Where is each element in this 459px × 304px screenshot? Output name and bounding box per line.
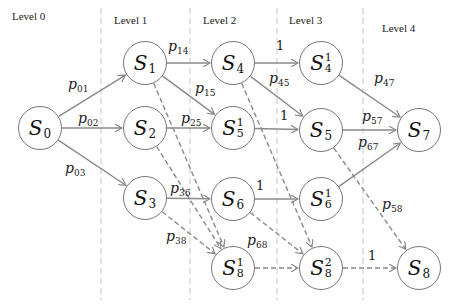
node-s2: S2 xyxy=(123,106,167,150)
edge-label-p15: p15 xyxy=(195,80,215,96)
node-s4: S4 xyxy=(211,41,255,85)
node-s1: S1 xyxy=(123,41,167,85)
level-label-1: Level 1 xyxy=(114,14,147,26)
edge-label-p02: p02 xyxy=(78,110,98,126)
edge-label-p67: p67 xyxy=(358,134,378,150)
level-label-2: Level 2 xyxy=(203,14,236,26)
edge-label-unit-0: 1 xyxy=(276,38,284,53)
edge-label-unit-3: 1 xyxy=(368,248,376,263)
node-s6: S6 xyxy=(211,177,255,221)
edge-label-p58: p58 xyxy=(382,196,402,212)
node-s8: S8 xyxy=(397,246,441,290)
node-s0: S0 xyxy=(18,106,62,150)
node-s8-2: S28 xyxy=(299,246,343,290)
level-label-0: Level 0 xyxy=(12,10,45,22)
node-s3: S3 xyxy=(123,176,167,220)
edge-label-p03: p03 xyxy=(65,160,85,176)
edge-label-p45: p45 xyxy=(269,70,289,86)
edge-label-p14: p14 xyxy=(168,38,188,54)
node-s7: S7 xyxy=(397,108,441,152)
level-label-4: Level 4 xyxy=(382,22,415,34)
node-s5-1: S15 xyxy=(211,106,255,150)
edge-label-unit-2: 1 xyxy=(256,178,264,193)
edge-S1-S8_1 xyxy=(154,83,224,247)
edge-label-p57: p57 xyxy=(362,108,382,124)
state-transition-diagram: Level 0Level 1Level 2Level 3Level 4 S0S1… xyxy=(0,0,459,304)
node-s6-1: S16 xyxy=(299,177,343,221)
node-s4-1: S14 xyxy=(299,41,343,85)
edge-label-unit-1: 1 xyxy=(280,108,288,123)
edge-label-p25: p25 xyxy=(181,110,201,126)
edge-label-p01: p01 xyxy=(68,76,88,92)
level-label-3: Level 3 xyxy=(289,14,322,26)
edge-label-p38: p38 xyxy=(166,228,186,244)
edge-label-p36: p36 xyxy=(170,180,190,196)
edge-label-p68: p68 xyxy=(247,232,267,248)
node-s8-1: S18 xyxy=(211,246,255,290)
node-s5: S5 xyxy=(299,108,343,152)
edge-label-p47: p47 xyxy=(374,70,394,86)
